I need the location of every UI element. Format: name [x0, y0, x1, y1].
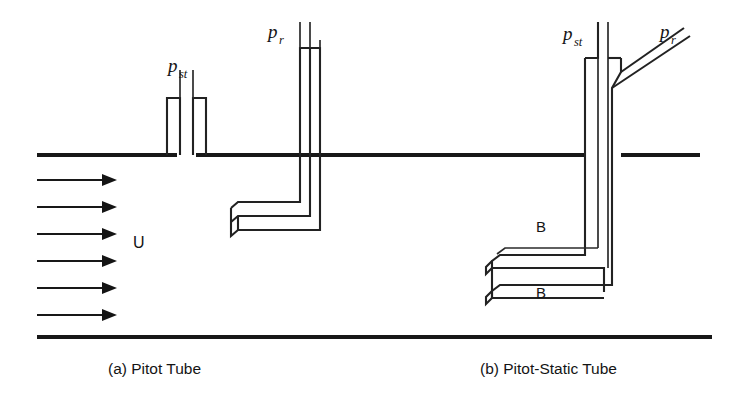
static-tap-right-collar	[193, 98, 206, 155]
pitot-static-probe-b	[486, 22, 690, 304]
pitot-outer-wall-a	[231, 48, 320, 222]
label-p-st-b-sub: st	[574, 35, 583, 49]
flow-arrow	[37, 174, 117, 186]
label-p-r-b-sub: r	[671, 33, 676, 47]
static-port-label-upper: B	[536, 218, 546, 235]
stem-inner-left-bend-b	[497, 248, 598, 254]
static-tap-left-collar	[167, 98, 180, 155]
label-p-st-b: p st	[561, 23, 583, 49]
flow-arrow	[37, 282, 117, 294]
stem-outer-right-b	[492, 58, 621, 298]
flow-arrow-group	[37, 174, 117, 321]
flow-arrow	[37, 201, 117, 213]
static-tap-probe-a	[167, 70, 206, 155]
caption-panel-b: (b) Pitot-Static Tube	[480, 360, 617, 377]
label-p-r-a-sub: r	[279, 33, 284, 47]
label-p-r-a: p r	[266, 21, 284, 47]
velocity-label: U	[133, 234, 145, 251]
flow-arrow	[37, 228, 117, 240]
pitot-inner-wall-a	[231, 48, 310, 222]
label-p-st-a-sub: st	[179, 67, 188, 81]
stem-cap-left-b	[585, 22, 598, 58]
flow-arrow	[37, 309, 117, 321]
stem-outer-left-b	[492, 58, 585, 268]
label-p-r-b-main: p	[658, 21, 670, 42]
caption-panel-a: (a) Pitot Tube	[108, 360, 201, 377]
pitot-lower-outer-a	[238, 216, 320, 230]
label-p-r-a-main: p	[266, 21, 278, 42]
nose-chamfer-lower-b	[486, 291, 492, 304]
static-port-label-lower: B	[536, 284, 546, 301]
pitot-tube-figure: U p st	[0, 0, 732, 401]
figure-canvas: U p st	[0, 0, 732, 401]
branch-lower-wall-b	[612, 36, 690, 88]
label-p-st-a: p st	[166, 55, 188, 81]
pitot-tube-probe-a	[231, 22, 320, 236]
label-p-st-a-main: p	[166, 55, 178, 76]
flow-arrow	[37, 255, 117, 267]
label-p-st-b-main: p	[561, 23, 573, 44]
annulus-upper-wall-b	[492, 268, 604, 292]
